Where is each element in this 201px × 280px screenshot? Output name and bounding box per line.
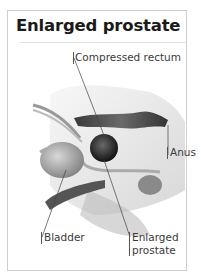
anus-label-tick	[167, 147, 168, 159]
bladder-label-tick	[41, 232, 42, 244]
label-bladder: Bladder	[44, 231, 85, 244]
label-anus: Anus	[170, 146, 196, 159]
label-enlarged-prostate-line1: Enlarged	[132, 231, 179, 244]
label-enlarged-prostate-line2: prostate	[132, 244, 176, 257]
bladder	[40, 142, 84, 178]
testis	[138, 175, 162, 195]
label-compressed-rectum: Compressed rectum	[75, 51, 181, 64]
prostate-label-tick	[129, 232, 130, 256]
enlarged-prostate	[90, 134, 118, 162]
rectum-label-tick	[73, 52, 74, 64]
